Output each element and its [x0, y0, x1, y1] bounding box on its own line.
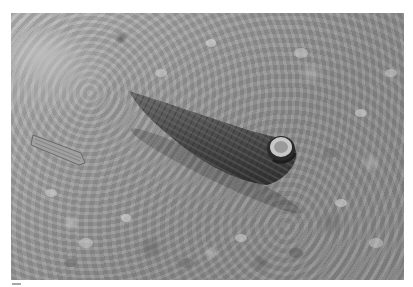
corner-mark: [12, 283, 21, 285]
snail-shell: [126, 91, 306, 222]
snail-photo: [11, 13, 404, 280]
photo-scene: [11, 13, 404, 280]
shell-fragment: [31, 135, 85, 165]
